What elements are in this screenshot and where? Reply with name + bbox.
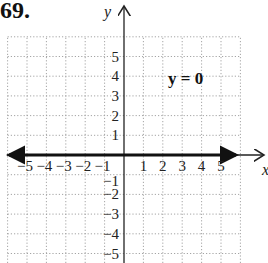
y-tick-label: 2 <box>112 108 120 124</box>
y-tick-label: 5 <box>112 49 120 65</box>
x-tick-label: 2 <box>159 158 167 174</box>
y-tick-label: −3 <box>103 206 119 222</box>
x-tick-labels: −5−4−3−2−112345 <box>17 158 225 174</box>
y-tick-label: −5 <box>103 246 119 262</box>
coordinate-plane: y x −5−4−3−2−112345 54321−1−2−3−4−5 y = … <box>0 0 268 263</box>
x-tick-label: −5 <box>17 158 33 174</box>
x-tick-label: 3 <box>178 158 186 174</box>
y-tick-label: −4 <box>103 226 119 242</box>
graph-figure: 69. y x −5−4−3−2−112345 54321−1−2−3−4−5 … <box>0 0 268 263</box>
y-axis-label: y <box>102 3 112 21</box>
x-tick-label: −4 <box>36 158 52 174</box>
x-tick-label: 5 <box>217 158 225 174</box>
x-tick-label: 4 <box>198 158 206 174</box>
y-tick-label: 1 <box>112 127 120 143</box>
x-tick-label: 1 <box>140 158 148 174</box>
x-tick-label: −3 <box>56 158 72 174</box>
y-tick-label: 3 <box>112 88 120 104</box>
x-axis-label: x <box>261 161 268 178</box>
equation-label: y = 0 <box>168 69 203 88</box>
y-tick-label: 4 <box>112 68 120 84</box>
x-tick-label: −2 <box>75 158 91 174</box>
y-tick-label: −2 <box>103 186 119 202</box>
x-tick-label: −1 <box>95 158 111 174</box>
